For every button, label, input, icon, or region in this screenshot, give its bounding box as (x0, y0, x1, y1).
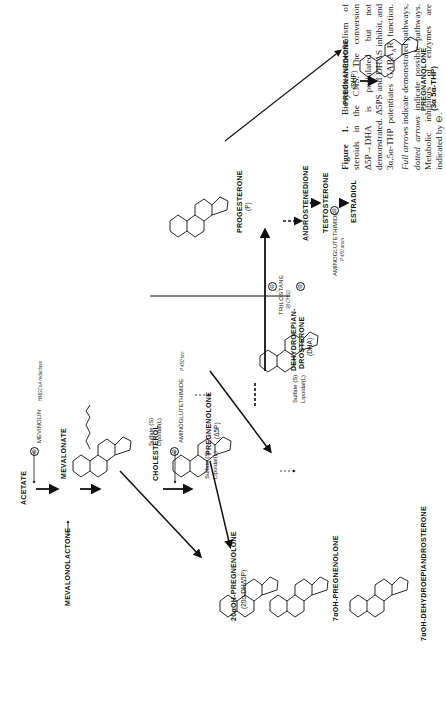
inhibitor-aminoglutethimide: AMINOGLUTETHIMIDE (178, 379, 184, 443)
figure-stage: Figure 1. Biosynthesis/metabolism of ste… (0, 0, 446, 701)
inhibitor-trilostane: TRILOSTANE (278, 275, 284, 315)
compound-pregnanolone: PREGNANOLONE (420, 48, 427, 112)
compound-dha: DEHYDROEPIAN- (290, 308, 297, 371)
conjugate-lipoidal: Lipoidal(L) (212, 451, 218, 479)
compound-mevalonate: MEVALONATE (60, 428, 67, 479)
compound-mevalonolactone: MEVALONOLACTONE (64, 528, 71, 606)
compound-pregnanedione: PREGNANEDIONE (342, 39, 349, 105)
compound-progesterone: PROGESTERONE (236, 170, 243, 233)
inhibitor-mevinolin: MEVINOLIN (36, 410, 42, 443)
inhibitor-icon: ⊖ (30, 447, 39, 456)
enzyme-p450arom: P 450 arom (340, 238, 345, 261)
abbr-20a-dhd5p: (20α-DHΔ5P) (240, 570, 247, 609)
abbr-dhp: (DHP) (350, 71, 357, 89)
compound-7aoh-dha: 7αOH-DEHYDROEPIANDROSTERONE (420, 506, 427, 641)
abbr-dha: (DHA) (306, 338, 313, 356)
compound-pregnenolone: PREGNENOLONE (205, 392, 212, 455)
compound-20aoh-pregnenolone: 20αOH-PREGNENOLONE (230, 531, 237, 621)
compound-7aoh-pregnenolone: 7αOH-PREGNENOLONE (332, 535, 339, 621)
conjugate-sulfate: Sulfate (S) (148, 418, 154, 446)
enzyme-p450scc: P 450 scc (180, 351, 185, 371)
inhibitor-icon: ⊖ (296, 282, 305, 291)
enzyme-hmgcoa: HMGCoA reductase (38, 361, 43, 401)
abbr-thp: (3α 5α-THP) (429, 66, 438, 111)
compound-estradiol: ESTRADIOL (350, 180, 357, 223)
conjugate-lipoidal: Lipoidal(L) (156, 418, 162, 446)
abbr-p: (P) (244, 202, 251, 211)
inhibitor-aminoglutethimide-2: AMINOGLUTETHIMIDE (332, 212, 338, 276)
compound-testosterone: TESTOSTERONE (322, 172, 329, 233)
enzyme-3bohsd: 3β OHSD (286, 290, 291, 309)
compound-acetate: ACETATE (20, 471, 27, 505)
conjugate-sulfate: Sulfate (S) (292, 375, 298, 403)
conjugate-sulfate: Sulfate (S) (204, 451, 210, 479)
inhibitor-icon: ⊖ (268, 282, 277, 291)
abbr-d5p: (Δ5P) (213, 422, 220, 439)
compound-dha-2: DROSTERONE (298, 317, 305, 369)
conjugate-lipoidal: Lipoidal(L) (300, 375, 306, 403)
inhibitor-icon: ⊖ (330, 206, 339, 215)
compound-androstenedione: ANDROSTENEDIONE (302, 165, 309, 241)
inhibitor-icon: ⊖ (170, 447, 179, 456)
